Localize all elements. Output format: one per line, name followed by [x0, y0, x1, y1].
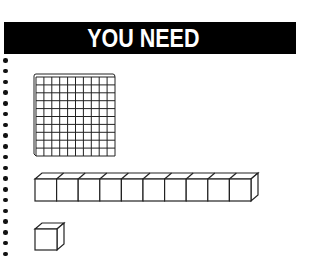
base-ten-blocks [0, 0, 312, 269]
tens-rod-icon [35, 173, 258, 201]
hundreds-flat-icon [34, 74, 115, 156]
unit-cube-icon [35, 223, 64, 250]
